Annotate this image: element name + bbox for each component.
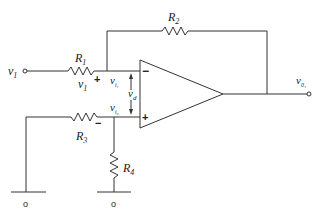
vd-arrowhead-up <box>129 73 133 79</box>
label-r3: R3 <box>75 129 87 145</box>
resistor-r3 <box>71 113 97 121</box>
resistor-r4 <box>110 152 118 178</box>
output-terminal <box>307 92 311 96</box>
label-vd: vd <box>128 87 137 102</box>
label-r1: R1 <box>74 51 86 67</box>
vd-arrowhead-down <box>129 109 133 115</box>
label-vi2: vi₂ <box>110 101 119 115</box>
resistor-r1 <box>68 67 94 75</box>
r3-minus-sign: − <box>95 117 101 129</box>
opamp-inverting-sign: − <box>142 64 149 78</box>
resistor-r2 <box>162 27 188 35</box>
label-vi1: vi₁ <box>110 74 119 88</box>
opamp-triangle <box>140 60 223 128</box>
label-input-v1: v1 <box>8 64 17 80</box>
ground-terminal-left: o <box>23 199 28 209</box>
opamp-noninverting-sign: + <box>142 111 148 123</box>
label-r1-voltage: v1 <box>78 77 87 93</box>
r1-plus-sign: + <box>94 73 100 85</box>
label-r4: R4 <box>122 161 134 177</box>
label-output: v0₁ <box>296 74 306 88</box>
ground-terminal-right: o <box>111 199 116 209</box>
label-r2: R2 <box>167 10 179 26</box>
circuit-diagram: R1 R2 R3 R4 v1 v1 vi₁ vi₂ vd v0₁ + − − +… <box>0 0 321 217</box>
input-terminal <box>23 69 27 73</box>
